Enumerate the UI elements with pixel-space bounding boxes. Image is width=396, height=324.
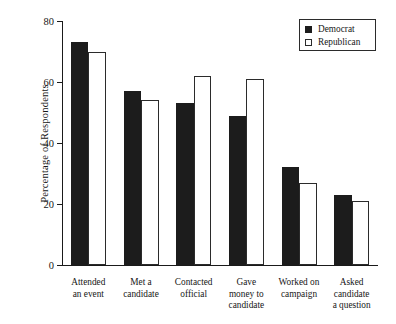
cropped-caption-strip [0,314,396,324]
bar-republican-6 [352,201,370,265]
bar-republican-3 [194,76,212,265]
y-axis-tick-mark [57,82,62,83]
bar-republican-5 [299,183,317,265]
bar-democrat-4 [229,116,247,265]
bar-republican-2 [141,100,159,265]
y-axis-tick-label: 0 [49,260,54,271]
chart-legend: Democrat Republican [299,19,376,51]
y-axis-tick-mark [57,265,62,266]
bar-democrat-6 [334,195,352,265]
y-axis-tick-label: 80 [44,16,55,27]
legend-item-democrat: Democrat [305,23,371,35]
bar-chart-figure: Percentage of Respondents 020406080 Atte… [0,0,396,324]
bar-democrat-5 [282,167,300,265]
y-axis-tick-mark [57,143,62,144]
bar-democrat-1 [71,42,89,265]
x-axis-label-6: Askedcandidatea question [319,277,384,312]
bar-republican-1 [88,52,106,266]
y-axis-tick-label: 40 [44,138,55,149]
x-axis-label-line: candidate [214,300,279,312]
x-axis-label-line: a question [319,300,384,312]
bar-democrat-2 [124,91,142,265]
legend-label-republican: Republican [318,37,360,47]
bar-republican-4 [246,79,264,265]
x-axis-line [62,265,378,266]
y-axis-tick-mark [57,21,62,22]
filled-square-icon [305,26,312,33]
x-axis-label-line: Asked [319,277,384,289]
legend-label-democrat: Democrat [318,24,355,34]
bar-democrat-3 [176,103,194,265]
legend-item-republican: Republican [305,36,371,48]
y-axis-tick-label: 60 [44,77,55,88]
y-axis-tick-label: 20 [44,199,55,210]
y-axis-tick-mark [57,204,62,205]
outlined-square-icon [305,39,312,46]
x-axis-label-line: candidate [319,289,384,301]
caption-text [34,314,36,321]
y-axis-line [62,21,63,266]
plot-area: 020406080 Attendedan eventMet acandidate… [62,21,378,265]
